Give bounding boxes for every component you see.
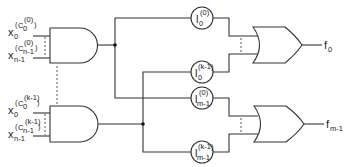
weight-l0-0: l (0) 0 [191,7,213,29]
svg-text:0: 0 [14,32,18,41]
or-gate-0: f 0 [253,27,332,63]
svg-text:0: 0 [328,45,332,54]
svg-text:0: 0 [198,73,202,82]
logic-circuit-diagram: l (0) 0 l (k-1) 0 l (0) m-1 l (k-1) m-1 … [0,0,357,167]
svg-text:0: 0 [23,24,27,33]
input-label-and0-xn-1: x n-1 ( C n-1 (0) ) [8,38,38,64]
and-gate-0 [33,28,115,63]
wire-l0-0-to-or-0 [213,18,258,36]
svg-text:(0): (0) [24,15,34,24]
wire-lk-1-m-1-to-or-m-1 [213,134,258,152]
svg-text:n-1: n-1 [14,55,25,64]
wire-lk-1-0-to-or-0 [213,54,258,72]
svg-text:): ) [34,20,37,29]
input-label-andk-1-x0: x 0 ( C 0 (k-1) ) [8,93,40,119]
bus-and-0 [113,18,191,98]
svg-text:n-1: n-1 [14,134,25,143]
wire-l0-m-1-to-or-m-1 [213,98,258,116]
weight-lk-1-0: l (k-1) 0 [191,61,214,83]
input-label-andk-1-xn-1: x n-1 ( C n-1 (k-1) ) [8,117,41,143]
svg-text:(0): (0) [200,8,210,17]
svg-text:(0): (0) [199,88,209,97]
svg-text:): ) [37,98,40,107]
bus-and-k-1 [141,72,191,152]
svg-text:(k-1): (k-1) [198,62,214,71]
and-gate-k-1 [33,106,143,142]
weight-l0-m-1: l (0) m-1 [191,87,213,109]
weight-lk-1-m-1: l (k-1) m-1 [191,141,214,163]
or-gate-m-1: f m-1 [254,106,343,142]
svg-text:0: 0 [14,110,18,119]
svg-text:m-1: m-1 [330,124,343,133]
svg-text:0: 0 [199,19,203,28]
svg-text:0: 0 [23,102,27,111]
svg-text:(0): (0) [24,38,34,47]
svg-text:m-1: m-1 [197,153,210,162]
svg-text:): ) [35,43,38,52]
svg-text:): ) [38,122,41,131]
svg-text:m-1: m-1 [197,99,210,108]
svg-text:n-1: n-1 [23,126,34,135]
svg-text:n-1: n-1 [23,47,34,56]
svg-text:(k-1): (k-1) [198,142,214,151]
